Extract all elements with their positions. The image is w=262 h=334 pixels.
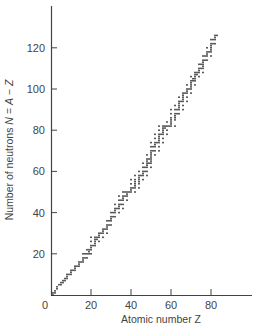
data-point [110, 224, 112, 226]
data-point [126, 195, 128, 197]
data-point [150, 162, 152, 164]
data-point [216, 35, 218, 37]
data-point [64, 280, 66, 282]
data-point [102, 232, 104, 234]
data-point [148, 162, 150, 164]
data-point [146, 160, 148, 162]
data-point [196, 72, 198, 74]
data-point [202, 68, 204, 70]
data-point [110, 212, 112, 214]
data-point [210, 39, 212, 41]
data-point [146, 167, 148, 169]
data-point [214, 39, 216, 41]
data-point [204, 55, 206, 57]
data-point [58, 284, 60, 286]
data-point [200, 68, 202, 70]
data-point [88, 251, 90, 253]
data-point [162, 127, 164, 129]
data-point [210, 45, 212, 47]
data-point [144, 167, 146, 169]
data-point [182, 92, 184, 94]
data-point [158, 129, 160, 131]
data-point [182, 96, 184, 98]
data-point [210, 51, 212, 53]
data-point [160, 134, 162, 136]
data-point [210, 55, 212, 57]
data-point [174, 115, 176, 117]
data-point [114, 212, 116, 214]
data-point [52, 292, 54, 294]
data-point [190, 76, 192, 78]
data-point [138, 181, 140, 183]
data-point [174, 119, 176, 121]
data-point [204, 59, 206, 61]
data-point [94, 237, 96, 239]
data-point [102, 230, 104, 232]
data-point [78, 263, 80, 265]
data-point [194, 72, 196, 74]
data-point [150, 150, 152, 152]
data-point [94, 243, 96, 245]
data-point [130, 189, 132, 191]
data-point [174, 105, 176, 107]
y-tick-label: 80 [33, 124, 45, 136]
data-point [134, 191, 136, 193]
data-point [148, 158, 150, 160]
data-point [88, 249, 90, 251]
x-tick-label: 80 [205, 299, 217, 311]
data-point [122, 191, 124, 193]
data-point [78, 265, 80, 267]
y-axis-label-A: A [3, 98, 15, 106]
data-point [190, 82, 192, 84]
data-point [158, 146, 160, 148]
data-point [146, 164, 148, 166]
data-point [126, 199, 128, 201]
data-point [82, 259, 84, 261]
data-point [82, 261, 84, 263]
data-point [170, 125, 172, 127]
data-point [126, 193, 128, 195]
data-point [90, 247, 92, 249]
data-point [146, 171, 148, 173]
data-point [162, 138, 164, 140]
data-point [162, 129, 164, 131]
data-point [182, 94, 184, 96]
data-point [202, 55, 204, 57]
data-point [70, 272, 72, 274]
y-axis-label-part: Number of neutrons [3, 125, 15, 221]
data-point [186, 88, 188, 90]
data-point [138, 177, 140, 179]
y-tick-label: 120 [27, 42, 45, 54]
data-point [162, 142, 164, 144]
data-point [168, 125, 170, 127]
data-point [162, 125, 164, 127]
data-point [170, 117, 172, 119]
data-point [210, 47, 212, 49]
data-point [154, 142, 156, 144]
data-point [176, 113, 178, 115]
data-point [54, 292, 56, 294]
data-point [94, 241, 96, 243]
data-point [150, 152, 152, 154]
data-point [206, 53, 208, 55]
data-point [194, 74, 196, 76]
y-axis-label-Z: Z [3, 79, 15, 87]
data-point [190, 92, 192, 94]
data-point [134, 175, 136, 177]
data-point [94, 239, 96, 241]
data-point [150, 154, 152, 156]
data-point [106, 226, 108, 228]
data-point [142, 167, 144, 169]
data-point [150, 160, 152, 162]
data-point [66, 278, 68, 280]
data-point [186, 101, 188, 103]
data-point [178, 96, 180, 98]
data-point [54, 290, 56, 292]
data-point [150, 142, 152, 144]
data-point [126, 191, 128, 193]
data-point [82, 257, 84, 259]
data-point [84, 253, 86, 255]
data-point [158, 134, 160, 136]
data-point [90, 249, 92, 251]
data-point [92, 245, 94, 247]
